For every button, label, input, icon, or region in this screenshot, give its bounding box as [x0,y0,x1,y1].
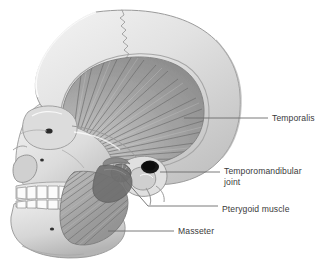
label-masseter: Masseter [178,226,214,237]
infraorbital-foramen [40,159,44,162]
skull-anatomy-diagram: Temporalis Temporomandibular joint Ptery… [0,0,333,263]
label-pterygoid-muscle: Pterygoid muscle [222,204,290,215]
label-temporomandibular-joint: Temporomandibular joint [224,166,302,187]
orbit [23,106,78,150]
label-temporalis: Temporalis [272,113,315,124]
mental-foramen [50,227,54,230]
skull-illustration [0,0,333,263]
